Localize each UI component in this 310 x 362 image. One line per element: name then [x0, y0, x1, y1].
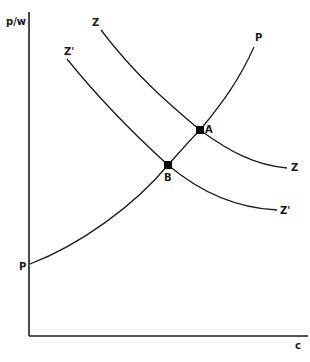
- x-axis-label: c: [295, 340, 301, 351]
- curve-z-prime: [67, 59, 277, 210]
- point-a-label: A: [205, 124, 213, 135]
- curve-p-label-end: P: [255, 32, 262, 43]
- point-b-marker: [164, 161, 172, 169]
- diagram-canvas: p/w c Z Z Z' Z' P P A B: [0, 0, 310, 362]
- curve-p: [30, 47, 254, 264]
- point-b-label: B: [164, 172, 172, 183]
- curve-z-prime-label-end: Z': [280, 205, 290, 216]
- y-axis-label: p/w: [6, 16, 26, 27]
- diagram-svg: p/w c Z Z Z' Z' P P A B: [0, 0, 310, 362]
- curve-z-label-start: Z: [92, 17, 99, 28]
- curve-z-prime-label-start: Z': [64, 46, 74, 57]
- curve-z: [101, 30, 287, 168]
- curve-p-label-start: P: [19, 261, 26, 272]
- point-a-marker: [196, 126, 204, 134]
- curve-z-label-end: Z: [291, 162, 298, 173]
